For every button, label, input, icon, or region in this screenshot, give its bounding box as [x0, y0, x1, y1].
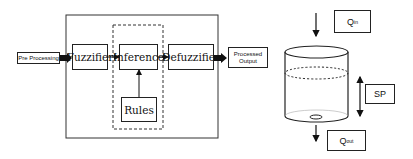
diagram-canvas: Pre Processing Fuzzifier Inference Rules… [0, 0, 413, 159]
tank-icon [285, 46, 348, 122]
outflow-symbol: Q [340, 136, 347, 146]
rules-block: Rules [121, 97, 157, 122]
inflow-label-box: Qin [334, 10, 371, 33]
inflow-symbol: Q [347, 17, 354, 27]
setpoint-label: SP [374, 89, 386, 99]
inflow-subscript: in [354, 19, 358, 25]
outflow-subscript: out [347, 138, 354, 144]
setpoint-label-box: SP [365, 84, 395, 104]
pre-processing-label: Pre Processing [18, 55, 59, 62]
processed-output-block: Processed Output [228, 47, 268, 68]
inference-label: Inference [113, 51, 164, 63]
inference-block: Inference [119, 44, 158, 70]
fuzzifier-label: Fuzzifier [67, 51, 114, 63]
rules-label: Rules [124, 104, 154, 116]
processed-output-label-line1: Processed [234, 51, 262, 58]
fuzzifier-block: Fuzzifier [72, 44, 108, 70]
outflow-label-box: Qout [327, 130, 366, 151]
defuzzifier-block: Defuzzifier [168, 44, 214, 70]
processed-output-label-line2: Output [239, 58, 257, 65]
defuzzifier-label: Defuzzifier [162, 51, 220, 63]
pre-processing-block: Pre Processing [17, 52, 60, 64]
